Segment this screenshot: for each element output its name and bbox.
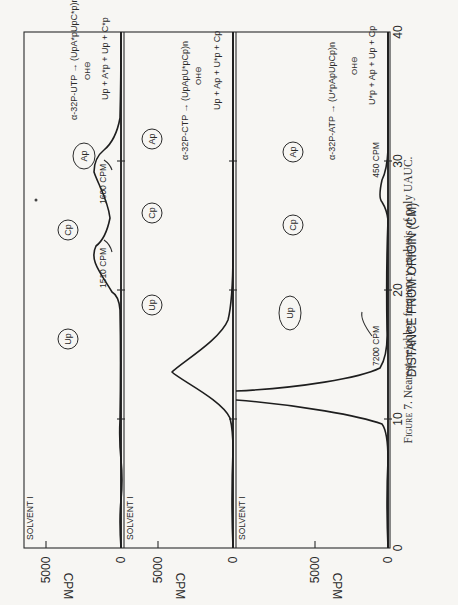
svg-text:Up: Up xyxy=(147,299,157,311)
svg-text:OH⊖: OH⊖ xyxy=(194,66,203,85)
y-axis-labels: CPM CPM CPM xyxy=(61,573,344,600)
svg-text:0: 0 xyxy=(114,556,128,563)
svg-text:Cp: Cp xyxy=(147,207,157,219)
svg-text:Ap: Ap xyxy=(147,133,157,144)
panel1-spots: Up Cp Ap xyxy=(58,143,95,349)
svg-text:CPM: CPM xyxy=(173,573,187,600)
panel1-annotations: 1510 CPM 1600 CPM xyxy=(98,160,112,288)
panel3-reaction: α-32P-ATP → (U*pApUpCp)n OH⊖ U*p + Ap + … xyxy=(327,26,377,160)
svg-text:40: 40 xyxy=(391,25,405,39)
caption-text: Nearest neighbor frequency analysis of p… xyxy=(402,157,414,399)
svg-text:Ap: Ap xyxy=(288,146,298,157)
svg-text:450 CPM: 450 CPM xyxy=(371,142,381,177)
caption-prefix: Figure 7. xyxy=(402,401,414,443)
svg-text:α-32P-UTP → (UpA*pUpC*p)n: α-32P-UTP → (UpA*pUpC*p)n xyxy=(69,0,79,120)
svg-text:1600 CPM: 1600 CPM xyxy=(98,164,108,204)
svg-text:α-32P-ATP → (U*pApUpCp)n: α-32P-ATP → (U*pApUpCp)n xyxy=(327,42,337,160)
panel3-trace xyxy=(236,32,388,548)
svg-text:1510 CPM: 1510 CPM xyxy=(98,248,108,288)
svg-text:0: 0 xyxy=(226,556,240,563)
panel3-spots: Up Cp Ap xyxy=(279,142,303,330)
svg-text:Up: Up xyxy=(63,333,73,345)
svg-text:CPM: CPM xyxy=(61,573,75,600)
figure-caption: Figure 7. Nearest neighbor frequency ana… xyxy=(402,100,418,500)
svg-text:5000: 5000 xyxy=(151,556,165,583)
y-ticks xyxy=(46,541,315,548)
panel2-reaction: α-32P-CTP → (UpApU*pCp)n OH⊖ Up + Ap + U… xyxy=(180,31,222,160)
svg-text:Up + Ap + U*p + Cp: Up + Ap + U*p + Cp xyxy=(212,31,222,110)
svg-text:OH⊖: OH⊖ xyxy=(83,61,92,80)
panel1-solvent-label: SOLVENT I xyxy=(25,496,35,540)
x-ticks xyxy=(117,161,392,419)
panel2-spots: Up Cp Ap xyxy=(142,129,162,315)
panel3-annotations: 7200 CPM 450 CPM xyxy=(362,142,381,366)
speck-mark xyxy=(35,199,38,202)
panel2-solvent-label: SOLVENT I xyxy=(125,496,135,540)
panel1-reaction: α-32P-UTP → (UpA*pUpC*p)n OH⊖ Up + A*p +… xyxy=(69,0,110,120)
svg-text:U*p + Ap + Up + Cp: U*p + Ap + Up + Cp xyxy=(367,26,377,105)
figure-7-chart: .ax{stroke:#2b2b2b;stroke-width:1.1;fill… xyxy=(0,0,458,605)
svg-text:OH⊖: OH⊖ xyxy=(350,56,359,75)
svg-text:Up: Up xyxy=(285,307,295,319)
svg-text:5000: 5000 xyxy=(308,556,322,583)
svg-text:0: 0 xyxy=(381,556,395,563)
svg-text:7200 CPM: 7200 CPM xyxy=(371,326,381,366)
svg-text:Cp: Cp xyxy=(63,224,73,236)
svg-text:5000: 5000 xyxy=(39,556,53,583)
svg-text:Up + A*p + Up + C*p: Up + A*p + Up + C*p xyxy=(100,17,110,100)
svg-text:0: 0 xyxy=(391,544,405,551)
svg-text:Ap: Ap xyxy=(79,150,89,161)
svg-text:CPM: CPM xyxy=(330,573,344,600)
svg-text:α-32P-CTP → (UpApU*pCp)n: α-32P-CTP → (UpApU*pCp)n xyxy=(180,41,190,160)
svg-text:Cp: Cp xyxy=(288,219,298,231)
panel3-solvent-label: SOLVENT I xyxy=(237,496,247,540)
